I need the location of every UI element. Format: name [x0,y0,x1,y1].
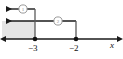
tick-label-minus-3: −3 [28,44,38,53]
middle-ray-marker-label: 2 [54,19,62,24]
step-function-figure: 1 2 −3 −2 x [0,0,123,59]
point-minus-2 [74,37,79,42]
upper-ray-marker-label: 1 [19,7,27,12]
x-axis-label: x [110,41,114,50]
tick-label-minus-2: −2 [69,44,79,53]
shaded-region [2,21,35,39]
point-minus-3 [33,37,38,42]
